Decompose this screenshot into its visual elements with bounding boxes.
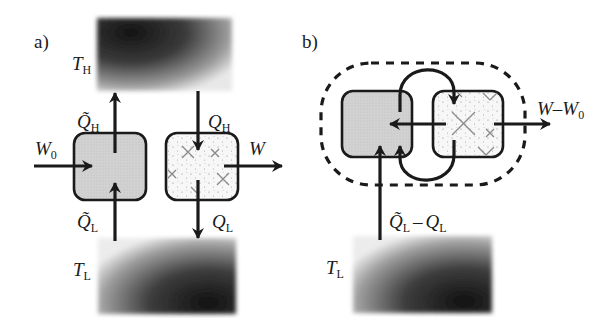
panel-a: a) TH TL Q̃H Q̃L W0 QH QL — [34, 18, 282, 314]
cold-reservoir — [98, 238, 236, 314]
panel-a-label: a) — [34, 31, 49, 53]
heat-pump-heat-out-label: Q̃H — [77, 111, 100, 135]
net-heat-label: Q̃L–QL — [389, 211, 447, 235]
hot-reservoir — [97, 18, 232, 91]
diagram-canvas: a) TH TL Q̃H Q̃L W0 QH QL — [0, 0, 616, 332]
engine-heat-out-label: QL — [212, 211, 233, 235]
heat-pump-heat-in-label: Q̃L — [77, 211, 98, 235]
engine-work-out-label: W — [249, 138, 267, 159]
cold-reservoir-label: TL — [73, 259, 91, 283]
hot-reservoir-label: TH — [72, 53, 92, 77]
cold-reservoir-b-label: TL — [326, 257, 344, 281]
net-work-label: W–W0 — [537, 98, 584, 122]
panel-b: b) TL W–W0 Q̃L–QL — [302, 31, 584, 313]
panel-b-label: b) — [302, 31, 318, 53]
heat-pump-work-in-label: W0 — [35, 138, 57, 162]
cold-reservoir-b — [353, 236, 492, 313]
engine-heat-in-label: QH — [208, 111, 231, 135]
